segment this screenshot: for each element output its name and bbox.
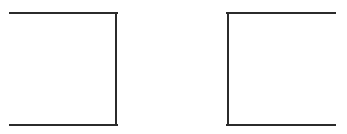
shapes-layer (10, 13, 335, 125)
left-bracket-shape (10, 13, 117, 125)
right-bracket-shape (227, 13, 335, 125)
diagram-canvas (0, 0, 347, 134)
